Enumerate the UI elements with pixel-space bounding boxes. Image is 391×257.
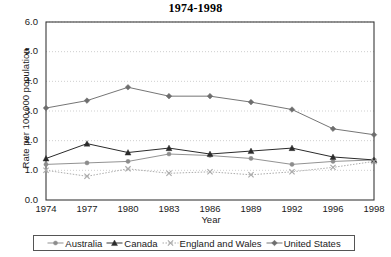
data-point-marker <box>54 241 58 245</box>
chart-legend: AustraliaCanadaEngland and WalesUnited S… <box>33 235 355 251</box>
data-point-marker <box>207 169 212 174</box>
data-point-marker <box>290 162 294 166</box>
legend-item-canada[interactable]: Canada <box>104 237 159 249</box>
legend-item-label: United States <box>284 238 341 249</box>
series-line <box>46 161 374 176</box>
legend-marker-icon <box>266 237 283 249</box>
data-point-marker <box>330 165 335 170</box>
data-point-marker <box>331 159 335 163</box>
plot-frame <box>46 22 374 200</box>
series-united-states <box>43 84 377 137</box>
data-point-marker <box>84 98 90 104</box>
data-point-marker <box>126 159 130 163</box>
data-point-marker <box>166 93 172 99</box>
data-point-marker <box>271 240 277 246</box>
data-point-marker <box>125 84 131 90</box>
data-point-marker <box>249 156 253 160</box>
x-axis-label: Year <box>46 214 376 225</box>
legend-item-label: Australia <box>65 238 102 249</box>
data-point-marker <box>85 161 89 165</box>
data-point-marker <box>167 152 171 156</box>
data-point-marker <box>248 99 254 105</box>
legend-item-united-states[interactable]: United States <box>264 237 343 249</box>
data-point-marker <box>289 107 295 113</box>
legend-marker-icon <box>106 237 123 249</box>
data-point-marker <box>84 141 90 147</box>
legend-item-label: Canada <box>124 238 157 249</box>
data-point-marker <box>44 162 48 166</box>
data-point-marker <box>43 155 49 161</box>
data-point-marker <box>371 132 377 138</box>
legend-marker-icon <box>162 237 179 249</box>
data-point-marker <box>207 93 213 99</box>
legend-marker-icon <box>47 237 64 249</box>
series-canada <box>43 141 377 163</box>
data-point-marker <box>43 105 49 111</box>
legend-item-england-and-wales[interactable]: England and Wales <box>160 237 264 249</box>
legend-item-label: England and Wales <box>180 238 262 249</box>
data-point-marker <box>330 126 336 132</box>
chart-figure: 1974-1998 Rate per 100,000 population 0.… <box>0 0 391 257</box>
legend-item-australia[interactable]: Australia <box>45 237 104 249</box>
